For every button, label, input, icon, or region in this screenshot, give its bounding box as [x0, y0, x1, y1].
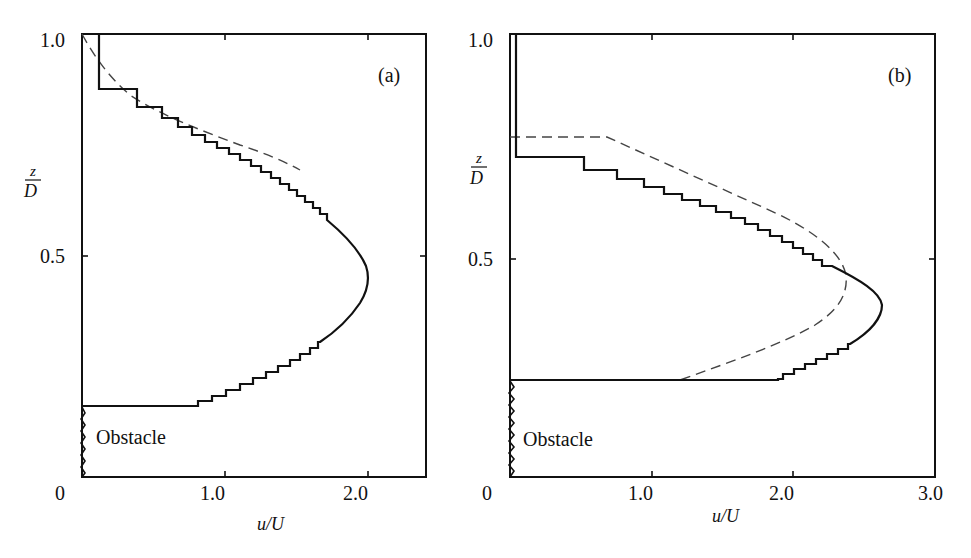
panel-b-ylabel-05: 0.5	[468, 248, 493, 270]
panel-a-obstacle-label: Obstacle	[96, 426, 166, 448]
panel-b-dashed-curve	[510, 137, 846, 380]
panel-a-dashed-curve	[82, 34, 300, 170]
panel-b: 1.0 0.5 0 1.0 2.0 3.0 u/U z D (b) Obstac…	[468, 29, 943, 526]
panel-a-xlabel-2: 2.0	[343, 482, 368, 504]
panel-a-solid-curve	[82, 34, 368, 406]
panel-a-label: (a)	[378, 64, 400, 87]
panel-a-yaxis-num: z	[29, 163, 36, 179]
panel-a-ylabel-05: 0.5	[40, 245, 65, 267]
panel-a-yaxis-title: z D	[23, 163, 41, 201]
figure: 1.0 0.5 0 1.0 2.0 u/U z D (a) Obstacle	[0, 0, 971, 558]
panel-b-yaxis-num: z	[475, 150, 482, 166]
panel-b-xaxis-title: u/U	[712, 506, 740, 526]
panel-b-xlabel-3: 3.0	[918, 482, 943, 504]
panel-a-ylabel-0: 0	[55, 482, 65, 504]
panel-a-xaxis-title: u/U	[257, 514, 285, 534]
panel-b-frame	[510, 34, 935, 477]
panel-a-xlabel-1: 1.0	[200, 482, 225, 504]
panel-b-yaxis-title: z D	[469, 150, 487, 188]
panel-b-xlabel-2: 2.0	[769, 482, 794, 504]
panel-b-label: (b)	[888, 64, 911, 87]
panel-b-ylabel-1: 1.0	[468, 29, 493, 51]
panel-b-solid-curve	[510, 34, 882, 380]
panel-b-ylabel-0: 0	[482, 482, 492, 504]
panel-b-xlabel-1: 1.0	[628, 482, 653, 504]
panel-a-frame	[82, 34, 426, 477]
panel-b-yaxis-den: D	[469, 168, 483, 188]
panel-a-ylabel-1: 1.0	[40, 29, 65, 51]
panel-a: 1.0 0.5 0 1.0 2.0 u/U z D (a) Obstacle	[23, 29, 426, 534]
panel-a-yaxis-den: D	[23, 181, 37, 201]
panel-b-obstacle-label: Obstacle	[523, 428, 593, 450]
